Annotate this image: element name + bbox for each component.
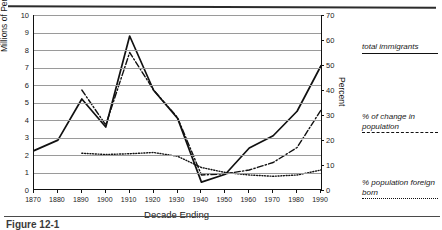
x-axis-tick [33,190,34,193]
x-axis-tick [57,190,58,193]
gridline [34,33,321,34]
y2-axis-tick [321,65,324,66]
x-axis-tick-label: 1960 [235,196,261,203]
y-axis-tick-label: 4 [13,117,29,124]
x-axis-tick [272,190,273,193]
legend-label: % population foreign born [362,178,440,197]
x-axis-tick-label: 1940 [187,196,213,203]
gridline [34,15,321,16]
y2-axis-tick-label: 40 [326,87,344,94]
y-axis-tick-label: 5 [13,99,29,106]
x-axis-tick-label: 1980 [283,196,309,203]
top-divider-rule [8,5,436,8]
x-axis-tick [81,190,82,193]
y-axis-tick-label: 8 [13,47,29,54]
y-axis-title: Millions of Persons [0,0,9,52]
x-axis-tick [296,190,297,193]
y-axis-tick-label: 10 [13,12,29,19]
x-axis-tick-label: 1880 [44,196,70,203]
x-axis-tick-label: 1990 [307,196,333,203]
y2-axis-tick [321,165,324,166]
gridline [34,68,321,69]
legend-label: total immigrants [362,42,440,52]
x-axis-tick [224,190,225,193]
y-axis-tick-label: 2 [13,152,29,159]
legend-item-percent-change-population: % of change in population [362,112,440,137]
x-axis-tick [153,190,154,193]
gridline [34,173,321,174]
bottom-divider-rule [4,216,440,217]
series-line-1 [34,36,321,182]
y-axis-tick-label: 6 [13,82,29,89]
legend-item-percent-foreign-born: % population foreign born [362,178,440,203]
y2-axis-tick [321,40,324,41]
legend-swatch-solid-line [362,53,438,58]
figure-caption-text: Figure 12-1 [6,219,206,230]
y2-axis-tick-label: 60 [326,37,344,44]
x-axis-tick-label: 1930 [164,196,190,203]
gridline [34,103,321,104]
x-axis-tick-label: 1950 [211,196,237,203]
y-axis-tick-label: 7 [13,64,29,71]
x-axis-tick [129,190,130,193]
figure-panel: Millions of Persons Percent Decade Endin… [0,0,442,230]
y2-axis-tick-label: 20 [326,137,344,144]
x-axis-tick-label: 1870 [20,196,46,203]
x-axis-tick-label: 1890 [68,196,94,203]
y-axis-tick-label: 3 [13,134,29,141]
y2-axis-tick-label: 0 [326,187,344,194]
gridline [34,155,321,156]
y-axis-tick-label: 0 [13,187,29,194]
y-axis-tick-label: 1 [13,169,29,176]
y2-axis-tick-label: 70 [326,12,344,19]
y2-axis-tick [321,115,324,116]
y2-axis-tick-label: 10 [326,162,344,169]
y2-axis-tick [321,140,324,141]
legend-swatch-dashdot-line [362,132,438,137]
series-line-2 [82,53,321,176]
y2-axis-tick-label: 30 [326,112,344,119]
figure-caption: Figure 12-1 [6,219,206,230]
x-axis-tick [177,190,178,193]
y2-axis-tick-label: 50 [326,62,344,69]
y2-axis-tick [321,15,324,16]
chart-plot-area [33,15,322,190]
x-axis-tick [320,190,321,193]
gridline [34,138,321,139]
legend-item-total-immigrants: total immigrants [362,42,440,58]
x-axis-tick [105,190,106,193]
gridline [34,50,321,51]
y2-axis-tick [321,190,324,191]
legend-swatch-dotted-line [362,198,438,203]
legend-label: % of change in population [362,112,440,131]
gridline [34,85,321,86]
x-axis-tick [200,190,201,193]
x-axis-tick [248,190,249,193]
y2-axis-tick [321,90,324,91]
x-axis-tick-label: 1910 [116,196,142,203]
x-axis-tick-label: 1970 [259,196,285,203]
x-axis-tick-label: 1900 [92,196,118,203]
x-axis-tick-label: 1920 [140,196,166,203]
y-axis-tick-label: 9 [13,29,29,36]
gridline [34,120,321,121]
